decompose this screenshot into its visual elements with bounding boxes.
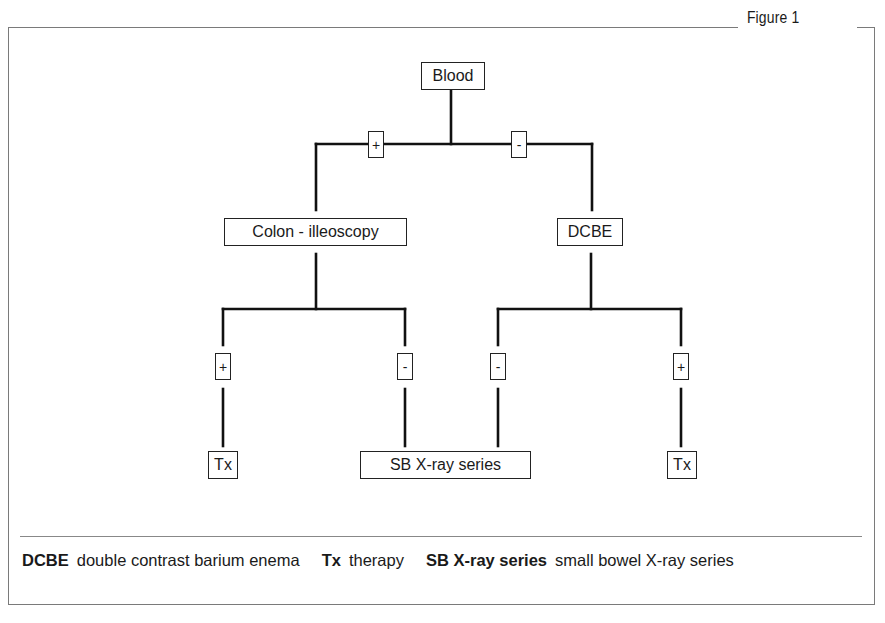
- connector-lines: [0, 0, 885, 623]
- edge-label-colon-positive: +: [215, 353, 231, 380]
- node-dcbe: DCBE: [557, 218, 623, 246]
- edge-label-blood-negative: -: [511, 131, 527, 158]
- legend-def-sb-xray: small bowel X-ray series: [555, 551, 734, 569]
- legend-term-tx: Tx: [322, 551, 341, 569]
- legend-separator: [20, 536, 862, 537]
- node-colon-illeoscopy: Colon - illeoscopy: [224, 218, 407, 246]
- node-sb-xray-series: SB X-ray series: [360, 451, 531, 479]
- legend: DCBEdouble contrast barium enemaTxtherap…: [22, 551, 734, 570]
- edge-label-blood-positive: +: [368, 131, 384, 158]
- legend-def-tx: therapy: [349, 551, 404, 569]
- legend-term-dcbe: DCBE: [22, 551, 69, 569]
- edge-label-dcbe-positive: +: [673, 353, 689, 380]
- legend-term-sb-xray: SB X-ray series: [426, 551, 547, 569]
- node-therapy-right: Tx: [667, 451, 697, 479]
- edge-label-dcbe-negative: -: [490, 353, 506, 380]
- legend-def-dcbe: double contrast barium enema: [77, 551, 300, 569]
- edge-label-colon-negative: -: [397, 353, 413, 380]
- node-therapy-left: Tx: [208, 451, 238, 479]
- node-blood: Blood: [421, 62, 485, 90]
